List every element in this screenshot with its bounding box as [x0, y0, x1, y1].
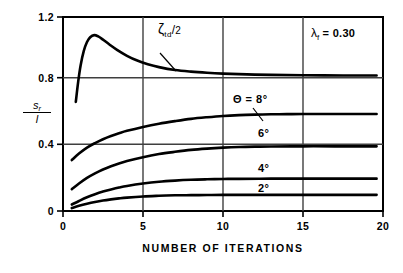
chart-figure: sr l 1.2 0.8 0.4 0 0 5 10 15 20 NUMBER O… [0, 0, 403, 273]
xtick-label-20: 20 [377, 221, 389, 232]
curve-theta-8-deg [72, 114, 377, 160]
xtick-label-5: 5 [140, 221, 146, 232]
y-axis-label-denominator: l [20, 113, 54, 125]
annotation-theta-4: 4° [258, 163, 270, 174]
zeta-subscript: td [164, 30, 172, 39]
annotation-zeta-td-over-2: ζtd/2 [158, 22, 181, 36]
xtick-label-0: 0 [60, 221, 66, 232]
ytick-label-1-2: 1.2 [12, 12, 54, 23]
ytick-label-0-4: 0.4 [12, 139, 54, 150]
curve-theta-6-deg [72, 146, 377, 189]
ytick-label-0: 0 [12, 206, 54, 217]
annotation-theta-8: Θ = 8° [233, 94, 268, 105]
annotation-lambda-f: λf = 0.30 [311, 27, 355, 39]
annotation-theta-2: 2° [258, 183, 270, 194]
xtick-label-10: 10 [217, 221, 229, 232]
y-axis-label-numerator: sr [20, 100, 54, 112]
xtick-label-15: 15 [297, 221, 309, 232]
curve-theta-2-deg [72, 195, 377, 208]
data-curves [72, 35, 377, 208]
y-axis-label-subscript: r [39, 104, 42, 113]
ytick-label-0-8: 0.8 [12, 73, 54, 84]
lambda-subscript: f [317, 33, 319, 42]
y-axis-label: sr l [20, 100, 54, 125]
curve-td-2 [76, 35, 377, 102]
plot-canvas [0, 0, 403, 273]
x-axis-label: NUMBER OF ITERATIONS [142, 243, 303, 254]
annotation-theta-6: 6° [258, 128, 270, 139]
curve-theta-4-deg [72, 179, 377, 205]
annotation-leaders [160, 53, 263, 121]
zeta-divisor: 2 [175, 25, 181, 36]
lambda-value: = 0.30 [323, 27, 356, 39]
